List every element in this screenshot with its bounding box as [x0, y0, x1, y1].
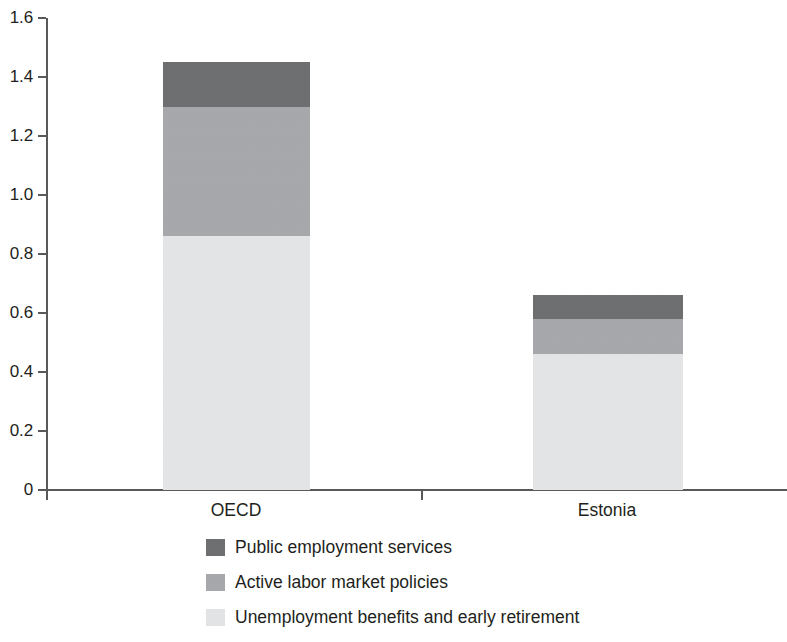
y-tick-label: 1.6	[0, 9, 33, 26]
legend-swatch-icon	[206, 574, 225, 591]
legend-swatch-icon	[206, 609, 225, 626]
y-tick-mark	[38, 17, 46, 19]
legend-label: Unemployment benefits and early retireme…	[235, 607, 579, 627]
bar-segment[interactable]	[163, 236, 310, 490]
y-tick-mark	[38, 253, 46, 255]
bar-segment[interactable]	[163, 107, 310, 237]
y-tick-label: 0.2	[0, 422, 33, 439]
y-tick-mark	[38, 194, 46, 196]
bar-estonia[interactable]	[533, 0, 683, 490]
y-tick-mark	[38, 430, 46, 432]
bar-segment[interactable]	[533, 319, 683, 354]
bar-segment[interactable]	[163, 62, 310, 106]
y-tick-label: 1.4	[0, 68, 33, 85]
y-tick-label: 1.0	[0, 186, 33, 203]
x-category-label-estonia: Estonia	[517, 500, 697, 520]
legend-swatch-icon	[206, 539, 225, 556]
y-tick-label: 1.2	[0, 127, 33, 144]
x-tick-mark	[46, 491, 48, 500]
y-tick-label: 0.4	[0, 363, 33, 380]
y-tick-label: 0.6	[0, 304, 33, 321]
y-axis-line	[46, 18, 48, 491]
y-tick-label: 0	[0, 481, 33, 498]
chart-figure: 1.61.41.21.00.80.60.40.20 OECDEstonia Pu…	[0, 0, 787, 642]
legend-label: Public employment services	[235, 537, 452, 557]
legend-label: Active labor market policies	[235, 572, 448, 592]
x-tick-mark	[421, 491, 423, 500]
y-tick-mark	[38, 76, 46, 78]
legend-item[interactable]: Active labor market policies	[206, 570, 448, 594]
y-tick-mark	[38, 135, 46, 137]
plot-area: 1.61.41.21.00.80.60.40.20 OECDEstonia	[0, 0, 787, 500]
legend-item[interactable]: Unemployment benefits and early retireme…	[206, 605, 579, 629]
y-tick-mark	[38, 371, 46, 373]
legend-item[interactable]: Public employment services	[206, 535, 452, 559]
bar-oecd[interactable]	[163, 0, 310, 490]
x-category-label-oecd: OECD	[146, 500, 326, 520]
y-tick-mark	[38, 312, 46, 314]
y-tick-label: 0.8	[0, 245, 33, 262]
bar-segment[interactable]	[533, 354, 683, 490]
y-tick-mark	[38, 489, 46, 491]
bar-segment[interactable]	[533, 295, 683, 319]
